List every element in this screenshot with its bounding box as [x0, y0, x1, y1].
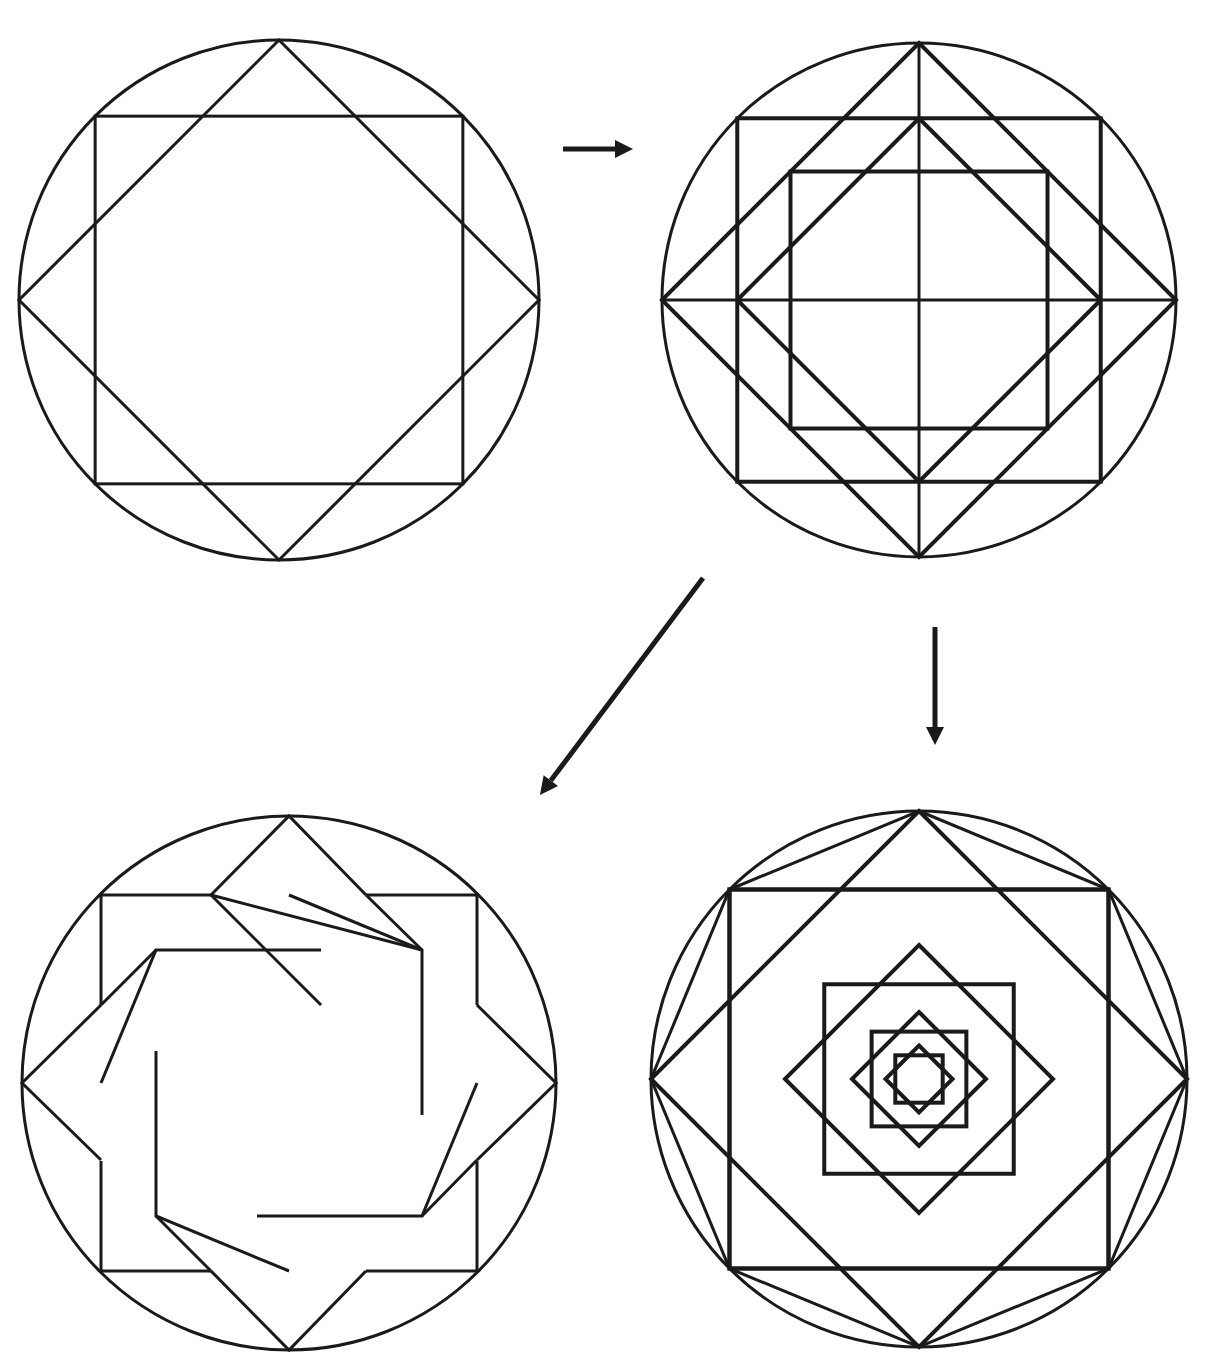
- skip: [211, 895, 422, 950]
- flow-arrows: [540, 140, 944, 795]
- diag-bl-outer: [156, 1216, 211, 1271]
- figure-1-octagram: [19, 40, 539, 560]
- band-bottom-right-inner: [257, 1083, 477, 1216]
- arrow-right-head-icon: [615, 140, 633, 158]
- band-top-right-inner: [289, 895, 422, 1115]
- diamond-outer-bottom: [211, 1271, 366, 1350]
- geometric-construction-diagram: [0, 0, 1209, 1370]
- diamond-outer-top: [211, 816, 366, 895]
- outer-circle: [19, 40, 539, 560]
- inscribed-square: [95, 116, 463, 484]
- diamond-outer-left: [22, 1005, 101, 1160]
- diag-tl-outer: [101, 950, 156, 1005]
- figure-3-interlaced-star: [22, 816, 556, 1350]
- figure-2-construction: [662, 43, 1176, 557]
- diag-br-outer: [422, 1160, 477, 1216]
- inscribed-diamond: [19, 40, 539, 560]
- diamond-outer-right: [477, 1005, 556, 1160]
- arrow-diagonal-shaft: [551, 578, 703, 781]
- figure-4-nested-squares: [651, 811, 1187, 1347]
- arrow-down-head-icon: [926, 727, 944, 745]
